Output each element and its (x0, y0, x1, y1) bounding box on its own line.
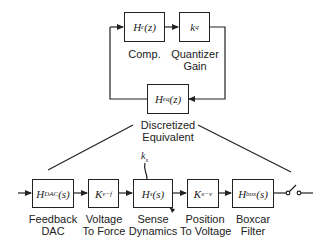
feedback-dac-label: Feedback DAC (23, 213, 83, 237)
block-expr-sub: q (195, 23, 199, 31)
label-line: To Force (78, 225, 130, 237)
voltage-to-force-block: Kv−f (88, 179, 119, 208)
boxcar-filter-block: Hbox(s) (232, 179, 274, 208)
block-expr-arg: (s) (153, 188, 165, 200)
block-expr: K (95, 188, 102, 200)
label-line: DAC (23, 225, 83, 237)
label-line: Boxcar (230, 213, 276, 225)
sense-dynamics-block: Hs(s) (133, 179, 173, 208)
label-line: Quantizer (167, 48, 223, 60)
compensator-block: Hc(z) (124, 12, 165, 42)
discretized-equivalent-label: Discretized Equivalent (133, 119, 203, 143)
quantizer-gain-block: kq (179, 12, 210, 42)
label-line: Gain (167, 60, 223, 72)
quantizer-gain-label: Quantizer Gain (167, 48, 223, 72)
block-expr: H (36, 188, 44, 200)
label-line: Sense (125, 213, 181, 225)
block-expr: H (142, 188, 150, 200)
block-expr: H (155, 93, 163, 105)
discretized-equivalent-block: Heq(z) (147, 84, 189, 114)
label-line: Voltage (78, 213, 130, 225)
ks-parameter: ks (141, 150, 148, 164)
block-expr-arg: (z) (169, 93, 181, 105)
label-line: To Voltage (180, 225, 230, 237)
compensator-label: Comp. (124, 48, 165, 60)
position-to-voltage-block: Kx−v (187, 179, 219, 208)
param-sub: s (145, 156, 148, 164)
block-expr-sub: x−v (201, 190, 212, 198)
position-to-voltage-label: Position To Voltage (180, 213, 230, 237)
boxcar-filter-label: Boxcar Filter (230, 213, 276, 237)
block-expr: H (133, 21, 141, 33)
label-line: Position (180, 213, 230, 225)
block-expr-arg: (s) (256, 188, 268, 200)
label-line: Filter (230, 225, 276, 237)
label-line: Equivalent (133, 131, 203, 143)
voltage-to-force-label: Voltage To Force (78, 213, 130, 237)
block-expr-sub: v−f (102, 190, 112, 198)
block-expr-sub: eq (163, 95, 170, 103)
block-expr-arg: (z) (144, 21, 156, 33)
block-expr: H (238, 188, 246, 200)
block-expr-arg: (s) (58, 188, 70, 200)
label-line: Dynamics (125, 225, 181, 237)
feedback-dac-block: HDAC(s) (32, 179, 74, 208)
block-expr-sub: DAC (44, 190, 58, 198)
label-line: Discretized (133, 119, 203, 131)
sense-dynamics-label: Sense Dynamics (125, 213, 181, 237)
label-line: Feedback (23, 213, 83, 225)
block-expr-sub: box (246, 190, 256, 198)
